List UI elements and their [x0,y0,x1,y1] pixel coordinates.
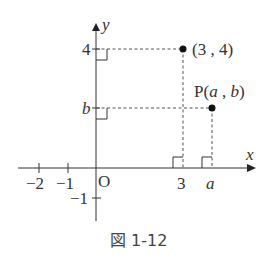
x-tick-label-3: 3 [177,174,186,193]
y-axis-arrow-icon [92,23,100,31]
right-angle-marker-4 [96,49,107,60]
x-axis-arrow-icon [247,164,256,172]
point-3-4 [180,46,187,53]
right-angle-marker-b [96,108,107,119]
x-axis-label: x [245,145,254,164]
point-p [209,105,216,112]
y-tick-label-b: b [82,99,91,118]
point-3-4-label: (3 , 4) [192,40,233,59]
point-p-label: P(a , b) [194,82,245,101]
right-angle-marker-a [202,157,212,168]
x-tick-label-neg2: −2 [26,174,44,193]
y-tick-label-4: 4 [82,40,91,59]
y-tick-label-neg1: −1 [70,189,88,208]
y-axis-label: y [100,15,110,34]
coordinate-diagram: x y O −2 −1 3 a 4 b −1 (3 , 4) P(a , b) … [0,0,276,278]
origin-label: O [98,172,110,191]
figure-caption: 図 1-12 [110,231,167,250]
x-tick-label-a: a [206,174,215,193]
right-angle-marker-3 [173,157,183,168]
